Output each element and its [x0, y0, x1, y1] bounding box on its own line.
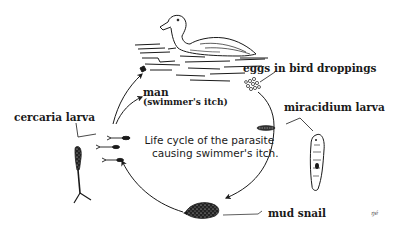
cercaria-leader-line: [76, 123, 96, 137]
arrow-cercaria-to-man: [116, 97, 142, 124]
life-cycle-diagram: eggs in bird droppings miracidium larva …: [0, 0, 410, 246]
label-eggs: eggs in bird droppings: [243, 63, 377, 75]
diagram-title-line-2: causing swimmer's itch.: [140, 147, 279, 160]
cercariae-swimming-icon: [96, 136, 130, 162]
eggs-icon: [245, 77, 261, 90]
miracidium-larva-icon: [310, 134, 324, 190]
artist-signature: ŋé: [371, 209, 378, 216]
label-cercaria-larva: cercaria larva: [14, 112, 95, 124]
label-mud-snail: mud snail: [268, 208, 326, 220]
label-miracidium-larva: miracidium larva: [284, 102, 385, 114]
snail-icon: [183, 203, 219, 219]
cercaria-larva-icon: [74, 147, 91, 203]
miracidium-swimming-icon: [257, 126, 275, 131]
diagram-title-line-1: Life cycle of the parasite: [140, 134, 279, 147]
diagram-title: Life cycle of the parasite causing swimm…: [140, 134, 279, 160]
snail-leader-line: [223, 211, 262, 215]
duck-icon: [160, 15, 256, 56]
arrow-snail-to-cercaria: [122, 161, 183, 212]
miracidium-leader-line: [286, 118, 313, 131]
label-swimmers-itch: (swimmer's itch): [143, 98, 228, 108]
